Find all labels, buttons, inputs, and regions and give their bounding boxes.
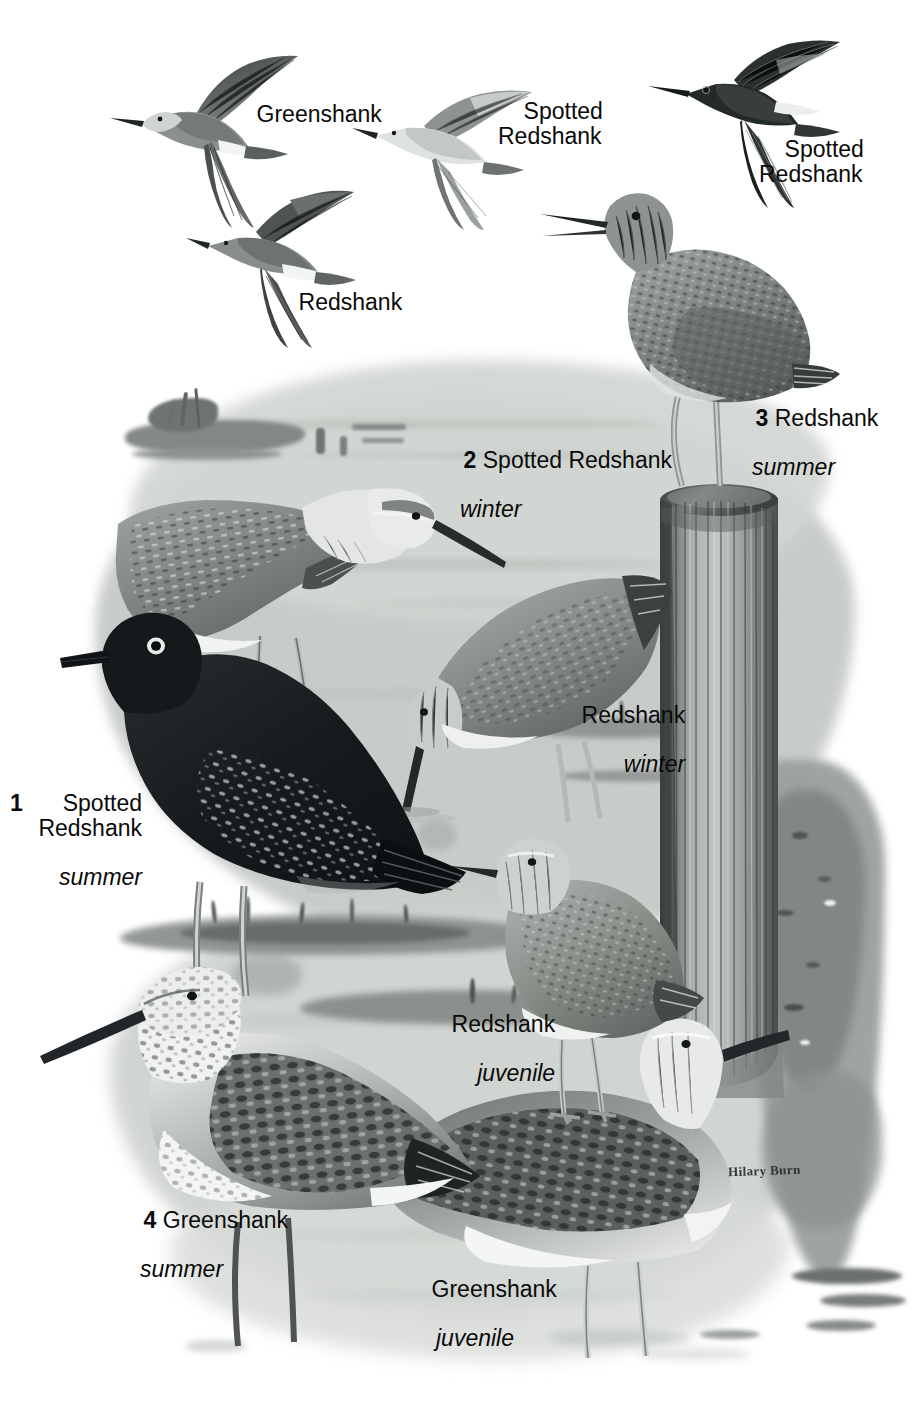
caption-species: Greenshank: [432, 1276, 557, 1302]
label-species: Redshank: [299, 289, 403, 315]
label-flight-spotted-redshank-dark: Spotted Redshank: [759, 113, 864, 211]
caption-age: summer: [730, 455, 878, 479]
caption-age: juvenile: [406, 1326, 557, 1350]
caption-species: Spotted Redshank: [483, 447, 672, 473]
bird-identification-plate: Greenshank Spotted Redshank Redshank Spo…: [0, 0, 916, 1403]
caption-age: winter: [438, 497, 672, 521]
caption-number: 1: [10, 791, 23, 815]
caption-age: winter: [556, 752, 685, 776]
label-species: Spotted Redshank: [498, 98, 603, 148]
caption-species: Redshank: [452, 1011, 556, 1037]
caption-3-redshank-summer: 3 Redshank summer: [730, 382, 878, 528]
caption-number: 2: [464, 447, 477, 473]
label-flight-redshank: Redshank: [273, 266, 402, 339]
caption-redshank-juvenile: Redshank juvenile: [426, 988, 555, 1134]
label-species: Spotted Redshank: [759, 136, 864, 186]
caption-species: Redshank: [775, 405, 879, 431]
artist-signature: Hilary Burn: [728, 1162, 801, 1181]
caption-redshank-winter: Redshank winter: [556, 679, 685, 825]
caption-greenshank-juvenile: Greenshank juvenile: [406, 1253, 557, 1399]
caption-species: Spotted Redshank: [38, 790, 142, 840]
caption-species: Greenshank: [163, 1207, 288, 1233]
caption-2-spotted-redshank-winter: 2 Spotted Redshank winter: [438, 424, 672, 570]
label-flight-greenshank: Greenshank: [231, 78, 382, 151]
caption-age: summer: [118, 1257, 288, 1281]
caption-1-spotted-redshank-summer: 1Spotted Redshank summer: [10, 767, 142, 938]
caption-age: summer: [10, 865, 142, 889]
label-species: Greenshank: [257, 101, 382, 127]
caption-species: Redshank: [582, 702, 686, 728]
label-flight-spotted-redshank-pale: Spotted Redshank: [498, 75, 603, 173]
caption-number: 3: [756, 405, 769, 431]
caption-age: juvenile: [426, 1061, 555, 1085]
caption-number: 4: [144, 1207, 157, 1233]
caption-4-greenshank-summer: 4 Greenshank summer: [118, 1184, 288, 1330]
